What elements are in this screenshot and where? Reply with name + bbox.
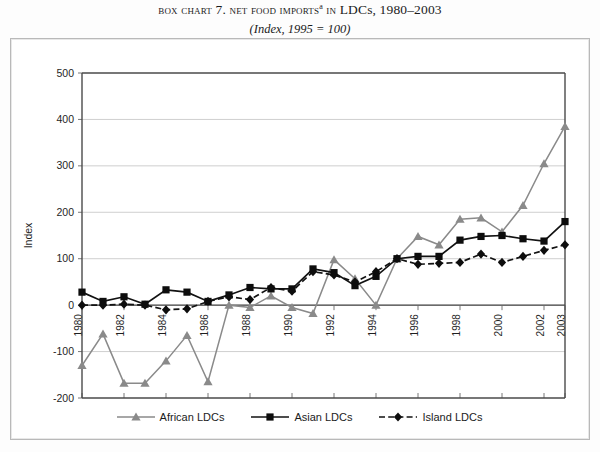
- data-point-island-ldcs: [540, 246, 548, 255]
- legend-label: Island LDCs: [422, 411, 482, 423]
- y-axis-tick-label: 0: [68, 299, 74, 311]
- data-point-asian-ldcs: [162, 286, 169, 293]
- title-number: 7.: [216, 2, 226, 17]
- data-point-asian-ldcs: [183, 289, 190, 296]
- y-axis-tick-label: 400: [56, 113, 74, 125]
- series-african-ldcs: [77, 122, 569, 387]
- data-point-african-ldcs: [266, 291, 275, 299]
- x-axis-tick-label: 1986: [199, 314, 210, 337]
- data-point-asian-ldcs: [414, 253, 421, 260]
- x-axis-tick-label: 1996: [409, 314, 420, 337]
- chart-subtitle: (Index, 1995 = 100): [0, 22, 600, 37]
- data-point-african-ldcs: [98, 330, 107, 338]
- data-point-african-ldcs: [329, 255, 338, 263]
- data-point-asian-ldcs: [456, 237, 463, 244]
- data-point-island-ldcs: [561, 240, 569, 249]
- x-axis-tick-label: 1998: [451, 314, 462, 337]
- y-axis-tick-label: 300: [56, 159, 74, 171]
- data-point-african-ldcs: [182, 331, 191, 339]
- title-tail: LDCs, 1980–2003: [340, 2, 442, 17]
- data-point-island-ldcs: [435, 259, 443, 268]
- data-point-asian-ldcs: [120, 293, 127, 300]
- data-point-african-ldcs: [287, 303, 296, 311]
- data-point-african-ldcs: [539, 159, 548, 167]
- data-point-island-ldcs: [519, 252, 527, 261]
- legend-item-asian-ldcs[interactable]: Asian LDCs: [250, 410, 352, 424]
- data-point-island-ldcs: [498, 258, 506, 267]
- x-axis-tick-label: 1988: [241, 314, 252, 337]
- data-point-asian-ldcs: [561, 218, 568, 225]
- y-axis-tick-label: 200: [56, 206, 74, 218]
- data-point-african-ldcs: [413, 232, 422, 240]
- y-axis-label: Index: [22, 222, 34, 248]
- x-axis-tick-label: 1990: [283, 314, 294, 337]
- square-marker: [250, 410, 290, 424]
- y-axis-tick-labels: 5004003002001000-100-200: [53, 67, 74, 404]
- y-axis-tick-label: 500: [56, 67, 74, 79]
- title-in: in: [326, 2, 336, 17]
- series-island-ldcs: [78, 240, 569, 314]
- chart-page: Box chart 7. Net food importsa in LDCs, …: [0, 0, 600, 452]
- data-point-asian-ldcs: [519, 235, 526, 242]
- x-axis-tick-label: 1992: [325, 314, 336, 337]
- chart-legend: African LDCsAsian LDCsIsland LDCs: [11, 400, 587, 434]
- x-axis-tick-label: 1982: [115, 314, 126, 337]
- legend-item-african-ldcs[interactable]: African LDCs: [116, 410, 225, 424]
- x-axis-tick-labels: 1980198219841986198819901992199419961998…: [73, 314, 567, 337]
- x-axis-tick-label: 1994: [367, 314, 378, 337]
- triangle-marker: [116, 410, 156, 424]
- data-point-african-ldcs: [518, 201, 527, 209]
- data-point-asian-ldcs: [498, 232, 505, 239]
- chart-svg: 5004003002001000-100-200 198019821984198…: [10, 38, 590, 440]
- data-point-island-ldcs: [78, 301, 86, 310]
- data-point-african-ldcs: [203, 377, 212, 385]
- legend-label: Asian LDCs: [294, 411, 352, 423]
- data-point-island-ldcs: [120, 300, 128, 309]
- title-prefix: Box chart: [158, 2, 212, 17]
- title-body: Net food imports: [230, 2, 320, 17]
- data-point-island-ldcs: [456, 258, 464, 267]
- legend-item-island-ldcs[interactable]: Island LDCs: [378, 410, 482, 424]
- chart-title-block: Box chart 7. Net food importsa in LDCs, …: [0, 2, 600, 37]
- data-series-group: [77, 122, 569, 387]
- y-axis-tick-label: 100: [56, 252, 74, 264]
- x-axis-tick-label: 1984: [157, 314, 168, 337]
- page-title: Box chart 7. Net food importsa in LDCs, …: [0, 2, 600, 18]
- data-point-asian-ldcs: [477, 233, 484, 240]
- x-axis-tick-label: 2000: [493, 314, 504, 337]
- legend-label: African LDCs: [160, 411, 225, 423]
- chart-plot-canvas: 5004003002001000-100-200 198019821984198…: [10, 38, 590, 440]
- data-point-asian-ldcs: [246, 284, 253, 291]
- series-line-african-ldcs: [82, 126, 565, 383]
- series-line-island-ldcs: [82, 245, 565, 310]
- y-axis-tick-label: -100: [53, 345, 74, 357]
- series-line-asian-ldcs: [82, 222, 565, 305]
- legend-diamond-marker: [394, 412, 402, 421]
- title-footnote-marker: a: [319, 2, 323, 11]
- data-point-island-ldcs: [414, 260, 422, 269]
- data-point-african-ldcs: [560, 122, 569, 130]
- x-axis-tick-label: 2002: [535, 314, 546, 337]
- diamond-marker: [378, 410, 418, 424]
- data-point-island-ldcs: [246, 295, 254, 304]
- data-point-island-ldcs: [162, 305, 170, 314]
- data-point-asian-ldcs: [540, 237, 547, 244]
- data-point-island-ldcs: [477, 249, 485, 258]
- legend-square-marker: [267, 413, 274, 420]
- data-point-asian-ldcs: [78, 289, 85, 296]
- y-axis-title: Index: [22, 222, 34, 248]
- data-point-african-ldcs: [77, 361, 86, 369]
- series-asian-ldcs: [78, 218, 568, 308]
